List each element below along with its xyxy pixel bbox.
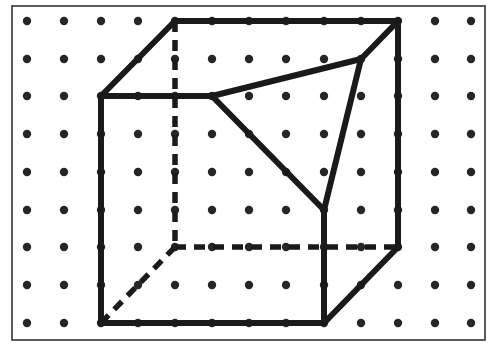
grid-dot (60, 130, 68, 138)
grid-dot (467, 130, 475, 138)
grid-dot (357, 130, 365, 138)
grid-dot (134, 17, 142, 25)
grid-dot (134, 130, 142, 138)
grid-dot (357, 168, 365, 176)
grid-dot (282, 281, 290, 289)
grid-dot (431, 130, 439, 138)
grid-dot (282, 206, 290, 214)
grid-dot (23, 55, 31, 63)
grid-dot (431, 168, 439, 176)
grid-dot (431, 92, 439, 100)
grid-dot (23, 243, 31, 251)
grid-dot (60, 168, 68, 176)
grid-dot (171, 281, 179, 289)
grid-dot (134, 206, 142, 214)
grid-dot (23, 206, 31, 214)
grid-dot (23, 92, 31, 100)
grid-dot (357, 206, 365, 214)
grid-dot (431, 319, 439, 327)
grid-dot (467, 206, 475, 214)
dot-grid-figure (0, 0, 491, 346)
grid-dot (208, 168, 216, 176)
grid-dot (97, 17, 105, 25)
grid-dot (282, 130, 290, 138)
grid-dot (60, 206, 68, 214)
grid-dot (23, 168, 31, 176)
grid-dot (134, 243, 142, 251)
grid-dot (394, 281, 402, 289)
grid-dot (320, 92, 328, 100)
grid-dot (60, 281, 68, 289)
grid-dot (245, 206, 253, 214)
grid-dot (467, 55, 475, 63)
grid-dot (357, 92, 365, 100)
grid-dot (282, 92, 290, 100)
grid-dot (467, 168, 475, 176)
grid-dot (134, 168, 142, 176)
grid-dot (320, 130, 328, 138)
grid-dot (431, 17, 439, 25)
grid-dot (467, 17, 475, 25)
grid-dot (431, 206, 439, 214)
grid-dot (208, 55, 216, 63)
grid-dot (60, 319, 68, 327)
cube-diagram (0, 0, 491, 346)
grid-dot (320, 168, 328, 176)
grid-dot (60, 17, 68, 25)
grid-dot (23, 319, 31, 327)
grid-dot (245, 55, 253, 63)
grid-dot (97, 55, 105, 63)
grid-dot (245, 281, 253, 289)
grid-dot (467, 319, 475, 327)
grid-dot (467, 92, 475, 100)
grid-dot (60, 55, 68, 63)
grid-dot (431, 55, 439, 63)
grid-dot (357, 243, 365, 251)
grid-dot (23, 17, 31, 25)
grid-dot (23, 130, 31, 138)
grid-dot (60, 92, 68, 100)
grid-dot (394, 319, 402, 327)
grid-dot (208, 281, 216, 289)
grid-dot (23, 281, 31, 289)
grid-dot (431, 243, 439, 251)
grid-dot (357, 319, 365, 327)
grid-dot (467, 243, 475, 251)
grid-dot (431, 281, 439, 289)
grid-dot (208, 130, 216, 138)
grid-dot (467, 281, 475, 289)
grid-dot (320, 55, 328, 63)
grid-dot (245, 168, 253, 176)
grid-dot (245, 92, 253, 100)
grid-dot (208, 206, 216, 214)
grid-dot (60, 243, 68, 251)
grid-dot (282, 55, 290, 63)
grid-dot (282, 243, 290, 251)
